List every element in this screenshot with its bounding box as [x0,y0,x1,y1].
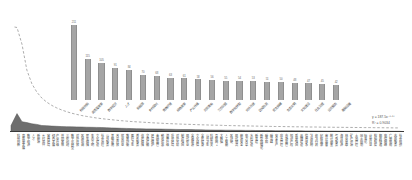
bottom-axis-label: 全民健身 [199,134,203,146]
bottom-axis-label: 就业创业 [119,134,123,146]
bottom-axis-label: 林业草原 [343,134,347,146]
bottom-axis-label: 纪检监察 [318,134,322,146]
bottom-axis-label: 税收优惠 [159,134,163,146]
bar-category-label: 科技创新 [64,102,90,128]
bar-column: 47 [302,14,316,100]
bar [98,63,104,100]
bar-value-label: 61 [183,75,186,78]
bottom-axis-label: 新型城镇化 [258,134,262,149]
bar-column: 91 [108,14,122,100]
bar [140,75,146,100]
bar [278,82,284,100]
bar-value-label: 42 [335,81,338,84]
bottom-axis-label: 碳达峰 [268,134,272,143]
bottom-axis-label: 质量强国 [293,134,297,146]
bottom-axis-label: 公共卫生 [204,134,208,146]
bar-column: 84 [122,14,136,100]
bottom-axis-label: 大数据 [219,134,223,143]
bottom-axis-label: 审计监督 [323,134,327,146]
bar [112,68,118,100]
bottom-axis-label: 互联网+ [214,134,218,147]
bottom-axis-label: 高质量发展 [20,134,24,149]
bottom-axis-label: 绿色发展 [50,134,54,146]
bar-column: 50 [274,14,288,100]
bottom-axis-label: 三农问题 [65,134,69,146]
bottom-axis-label: 产业升级 [55,134,59,146]
bar [319,84,325,100]
bottom-axis-label: 邮政快递 [378,134,382,146]
bar-value-label: 70 [141,71,144,74]
bottom-axis-label: 现代物流 [234,134,238,146]
bottom-axis-label: 计量认证 [368,134,372,146]
bottom-axis-label: 矿产资源 [348,134,352,146]
bar-value-label: 58 [197,76,200,79]
bar-value-label: 45 [321,80,324,83]
bottom-axis-label: 民生保障 [84,134,88,146]
bar [85,59,91,100]
bar-column: 68 [150,14,164,100]
bar-column: 42 [329,14,343,100]
bottom-axis-label: 数字经济 [25,134,29,146]
bar [250,81,256,100]
bar-value-label: 84 [128,66,131,69]
bar-column: 54 [233,14,247,100]
bottom-axis-label: 信用体系 [303,134,307,146]
bottom-axis-label: 区域协调 [80,134,84,146]
bottom-axis-label: 社会组织 [397,134,401,146]
bar-value-label: 50 [279,78,282,81]
bar-column: 48 [288,14,302,100]
bar-column: 53 [246,14,260,100]
bottom-axis-label: 人才 [30,134,34,140]
bottom-axis-label: 人工智能 [224,134,228,146]
bottom-axis-label: 改革开放 [114,134,118,146]
bottom-axis-label: 制造强国 [179,134,183,146]
bar-column: 211 [67,14,81,100]
bottom-axis-label: 知识产权 [288,134,292,146]
bar [209,80,215,100]
bar [181,78,187,100]
bottom-axis-label: 气象服务 [333,134,337,146]
bar [223,81,229,101]
bottom-axis-label: 公共服务 [104,134,108,146]
bottom-axis-label: 住房保障 [139,134,143,146]
bottom-axis-label: 土地管理 [353,134,357,146]
bottom-axis-label: 碳中和 [263,134,267,143]
bar-value-label: 115 [86,55,90,58]
bar [167,78,173,100]
bottom-axis-label: 品牌建设 [298,134,302,146]
keyword-frequency-chart: 211科技创新115高质量发展105数字经济91人才84新能源70乡村振兴68营… [0,0,412,180]
bottom-axis-label: 乡村振兴 [40,134,44,146]
bottom-axis-label: 生态文明 [89,134,93,146]
bar-column: 61 [177,14,191,100]
bottom-axis-label: 海洋经济 [338,134,342,146]
bar-value-label: 54 [238,77,241,80]
bottom-axis-label: 对外贸易 [174,134,178,146]
bottom-axis-label: 基础设施 [109,134,113,146]
bottom-axis-label: 现代农业 [184,134,188,146]
bottom-axis-label: 数字化转型 [70,134,74,149]
bottom-axis-label: 市场监管 [283,134,287,146]
bar [292,83,298,100]
trendline-formula: y = 187.5x⁻⁰·⁸⁷ [372,115,395,121]
bottom-axis-label: 养老服务 [134,134,138,146]
bar [264,82,270,100]
bottom-axis-label: 检验检疫 [373,134,377,146]
trendline-r-squared: R² = 0.9034 [372,121,395,127]
bottom-axis-label: 新能源 [35,134,39,143]
bottom-axis-label: 营商环境 [45,134,49,146]
bar-value-label: 48 [293,79,296,82]
bar [154,76,160,100]
trendline-equation: y = 187.5x⁻⁰·⁸⁷ R² = 0.9034 [372,115,395,126]
bottom-axis-label: 标准化 [363,134,367,143]
bottom-axis-label: 文化自信 [194,134,198,146]
bottom-axis-label: 共同富裕 [60,134,64,146]
bar [305,83,311,100]
bar-value-label: 55 [224,77,227,80]
bar [333,85,339,100]
bottom-axis-label: 全域旅游 [189,134,193,146]
bar-value-label: 51 [266,78,269,81]
bottom-axis-label: 文化建设 [94,134,98,146]
bottom-axis-label: 交通运输 [144,134,148,146]
bottom-axis-label: 社会治理 [99,134,103,146]
bar-value-label: 91 [114,64,117,67]
